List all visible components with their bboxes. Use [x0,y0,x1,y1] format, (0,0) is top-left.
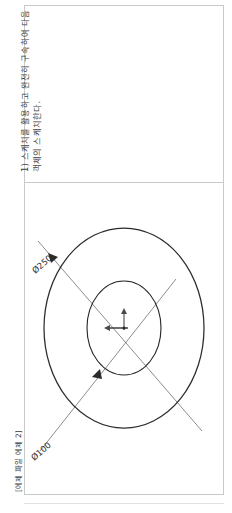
instruction-line-2: 객체의 스케치한다. [33,101,41,172]
instruction-line-1: 1) 스케치를 활용하고 완전히 구속하여 다음 [21,10,29,172]
origin-y-arrow [121,308,127,314]
sketch-origin-marker [104,308,128,331]
technical-drawing-canvas [24,183,224,495]
drawing-svg [24,183,224,495]
dimension-arrow-inner [92,369,102,379]
sheet-baseline [24,503,224,504]
origin-point [122,326,125,329]
example-file-caption: [예제 파일 예제 2] [12,430,23,492]
dimension-line-inner [40,279,176,451]
origin-x-arrow [104,325,110,331]
page-root: 1) 스케치를 활용하고 완전히 구속하여 다음 객체의 스케치한다. [예제 … [0,0,232,513]
